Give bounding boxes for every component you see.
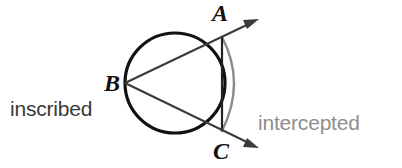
intercepted-arc-callout: intercepted arc xyxy=(258,60,360,168)
inscribed-angle-diagram: inscribed angle intercepted arc A B C xyxy=(0,0,402,168)
vertex-label-c: C xyxy=(213,139,229,163)
ray-bc-arrowhead xyxy=(243,138,259,148)
intercepted-arc-line-1: intercepted xyxy=(258,110,360,135)
inscribed-angle-callout: inscribed angle xyxy=(10,46,92,168)
ray-ba-arrowhead xyxy=(243,19,259,29)
vertex-label-a: A xyxy=(212,1,228,25)
inscribed-angle-line-1: inscribed xyxy=(10,96,92,121)
circle-shape xyxy=(125,33,225,133)
vertex-label-b: B xyxy=(104,71,120,95)
